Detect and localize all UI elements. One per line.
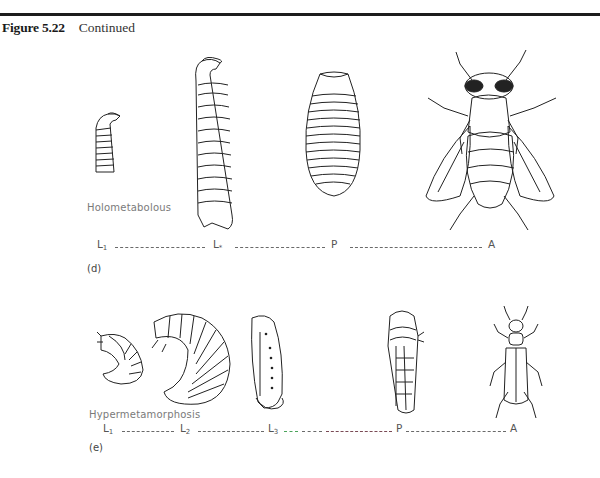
larva-large-illustration: [188, 55, 248, 231]
stage-adult: A: [510, 422, 517, 434]
puparium-illustration: [302, 70, 366, 200]
stage-pupa: P: [396, 422, 402, 434]
stage-connector: [122, 431, 174, 433]
stage-connector: [326, 431, 392, 433]
stage-connector: [406, 431, 506, 433]
stage-connector: [198, 431, 264, 433]
adult-beetle-illustration: [486, 306, 546, 418]
stage-connector: [284, 431, 298, 433]
stage-l3: L3: [268, 422, 278, 436]
stage-pupa: P: [331, 238, 337, 250]
stage-l-final: L*: [213, 238, 222, 252]
grub-small-illustration: [95, 330, 147, 386]
larva-small-illustration: [92, 110, 126, 174]
stage-l1: L1: [97, 238, 107, 252]
type-label-holometabolous: Holometabolous: [87, 202, 171, 213]
figure-caption: Figure 5.22Continued: [2, 20, 135, 36]
stage-connector: [302, 431, 322, 433]
adult-fly-illustration: [420, 46, 570, 242]
stage-l1: L1: [103, 422, 113, 436]
stage-l2: L2: [180, 422, 190, 436]
stage-connector: [350, 247, 482, 249]
stage-adult: A: [488, 238, 495, 250]
type-label-hypermetamorphosis: Hypermetamorphosis: [89, 409, 200, 420]
stage-connector: [115, 247, 205, 249]
coarctate-larva-illustration: [244, 312, 294, 414]
panel-label-e: (e): [89, 442, 103, 453]
pupa-illustration: [380, 306, 426, 416]
panel-label-d: (d): [87, 263, 101, 274]
top-rule: [0, 13, 600, 16]
figure-number: Figure 5.22: [2, 20, 65, 35]
grub-large-illustration: [148, 308, 234, 408]
figure-caption-suffix: Continued: [79, 20, 135, 35]
stage-connector: [235, 247, 325, 249]
